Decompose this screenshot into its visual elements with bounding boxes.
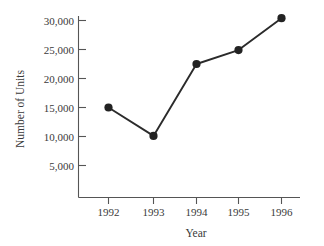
chart-figure: 30,000 25,000 20,000 15,000 10,000 5,000… [0,0,324,246]
line-chart: 30,000 25,000 20,000 15,000 10,000 5,000… [0,0,324,246]
data-point-1994 [192,60,200,68]
y-tick-label-5000: 5,000 [49,160,74,172]
data-point-1995 [234,46,242,54]
x-tick-label-1992: 1992 [98,206,120,218]
y-tick-label-15000: 15,000 [44,102,75,114]
data-point-1993 [149,132,157,140]
y-tick-label-30000: 30,000 [44,15,75,27]
data-point-1992 [104,103,112,111]
x-tick-label-1996: 1996 [271,206,294,218]
x-tick-label-1994: 1994 [186,206,209,218]
x-axis-title: Year [185,227,206,239]
x-tick-label-1995: 1995 [228,206,251,218]
y-tick-label-20000: 20,000 [44,73,75,85]
y-axis-title: Number of Units [14,70,26,148]
y-tick-label-10000: 10,000 [44,131,75,143]
data-point-1996 [277,14,285,22]
series-line-number-of-units [109,18,282,136]
x-tick-label-1993: 1993 [143,206,166,218]
y-tick-label-25000: 25,000 [44,44,75,56]
